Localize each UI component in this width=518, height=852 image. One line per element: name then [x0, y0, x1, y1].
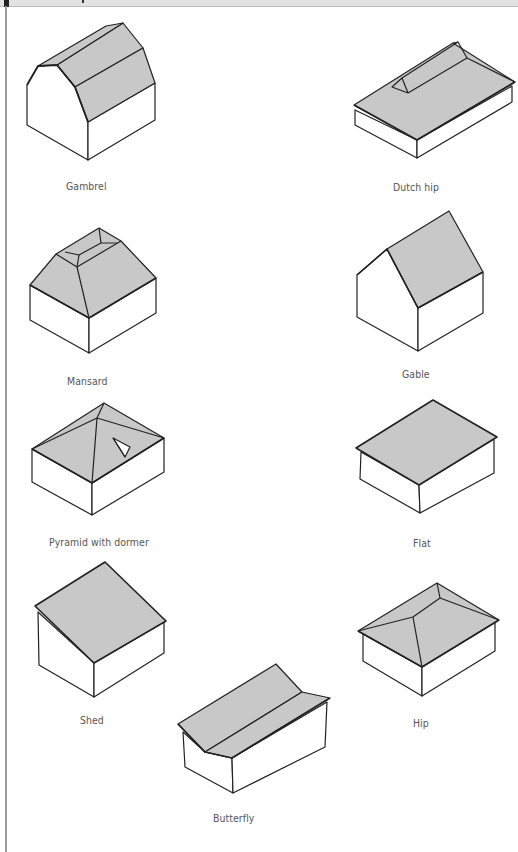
- mansard-roof-drawing: [30, 228, 156, 353]
- label-flat: Flat: [413, 537, 431, 550]
- hip-roof-drawing: [358, 583, 499, 696]
- label-mansard: Mansard: [67, 375, 108, 388]
- gable-roof-drawing: [357, 211, 483, 351]
- label-shed: Shed: [80, 714, 104, 727]
- gambrel-roof-drawing: [27, 23, 155, 160]
- label-dutch-hip: Dutch hip: [393, 181, 439, 194]
- flat-roof-drawing: [356, 400, 497, 513]
- label-butterfly: Butterfly: [213, 812, 254, 825]
- pyramid-with-dormer-roof-drawing: [32, 403, 164, 515]
- butterfly-roof-drawing: [178, 664, 330, 793]
- label-gable: Gable: [402, 368, 430, 381]
- label-gambrel: Gambrel: [66, 180, 107, 193]
- roof-types-diagram: [0, 0, 518, 852]
- label-pyramid-with-dormer: Pyramid with dormer: [49, 536, 149, 549]
- dutch-hip-roof-drawing: [354, 42, 515, 158]
- shed-roof-drawing: [35, 562, 166, 697]
- label-hip: Hip: [413, 717, 429, 730]
